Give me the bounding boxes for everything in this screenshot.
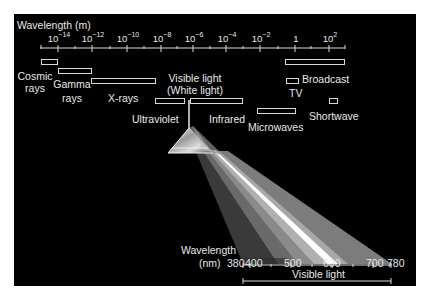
shortwave-range-box <box>329 98 338 104</box>
tick-label-1e-10: 10−10 <box>113 33 143 45</box>
visible-tick-780: 780 <box>387 257 405 269</box>
axis-title: Wavelength (m) <box>17 19 91 31</box>
radio-range-box <box>285 59 345 65</box>
tv-label: TV <box>289 87 302 99</box>
gamma-rays-range-box <box>58 68 92 74</box>
tick-label-1e-14: 10−14 <box>44 33 74 45</box>
microwaves-label: Microwaves <box>248 121 303 133</box>
tick-label-1e-6: 10−6 <box>179 33 209 45</box>
gamma-rays-label: Gammarays <box>50 78 94 104</box>
tick-label-1e-8: 10−8 <box>147 33 177 45</box>
visible-tick-700: 700 <box>366 257 384 269</box>
prism <box>168 126 222 154</box>
ultraviolet-range-box <box>155 98 185 104</box>
wavelength-axis <box>40 45 345 52</box>
x-rays-label: X-rays <box>108 92 138 104</box>
microwaves-range-box <box>257 108 296 114</box>
visible-light-label: Visible light(White light) <box>155 72 235 96</box>
broadcast-label: Broadcast <box>302 73 349 85</box>
tick-label-1e-12: 10−12 <box>78 33 108 45</box>
x-rays-range-box <box>91 78 156 84</box>
visible-light-range-label: Visible light <box>290 268 347 280</box>
infrared-label: Infrared <box>209 113 245 125</box>
tick-label-1e-2: 10−2 <box>246 33 276 45</box>
tick-label-1e2: 102 <box>315 33 345 45</box>
tick-label-1: 1 <box>281 33 311 45</box>
cosmic-rays-range-box <box>41 59 58 65</box>
broadcast-range-box <box>286 78 299 84</box>
visible-scale-unit: (nm) <box>199 257 221 269</box>
shortwave-label: Shortwave <box>309 110 359 122</box>
cosmic-rays-label: Cosmicrays <box>15 70 55 94</box>
visible-tick-380: 380 <box>227 257 245 269</box>
visible-scale-title: Wavelength <box>181 244 236 256</box>
tick-label-1e-4: 10−4 <box>212 33 242 45</box>
visible-tick-400: 400 <box>245 257 263 269</box>
infrared-range-box <box>190 98 243 104</box>
ultraviolet-label: Ultraviolet <box>132 113 179 125</box>
